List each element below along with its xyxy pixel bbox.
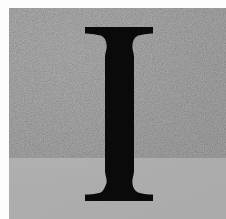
capital-letter-i-path xyxy=(85,27,153,201)
capital-letter-i-glyph xyxy=(0,0,226,219)
glyph-layer xyxy=(0,0,226,219)
image-canvas xyxy=(0,0,226,219)
